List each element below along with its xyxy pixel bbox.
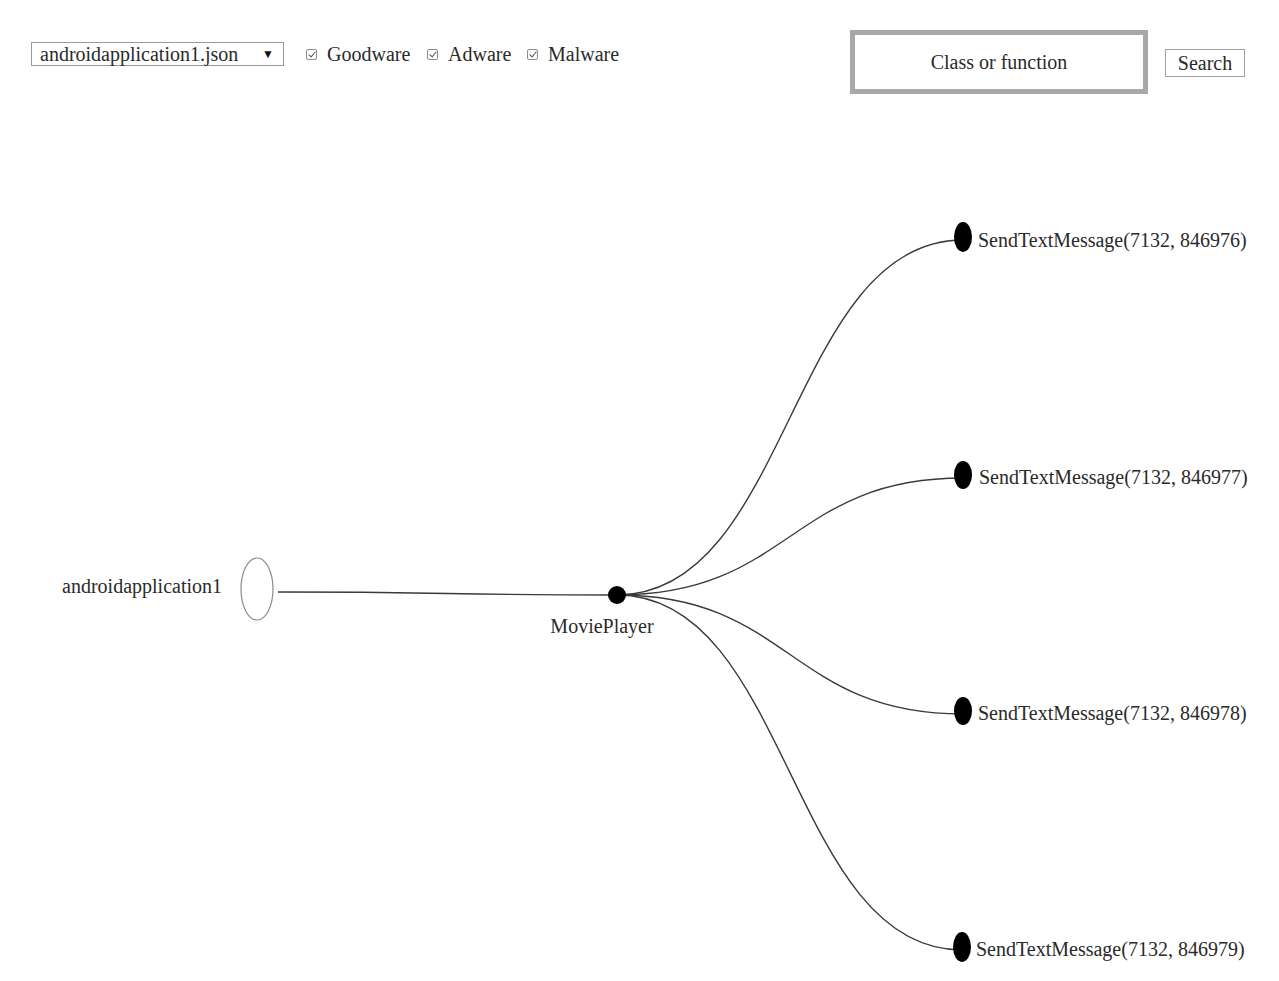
leaf-node-label: SendTextMessage(7132, 846979) <box>976 938 1245 961</box>
tree-node-leaf-2[interactable]: SendTextMessage(7132, 846977) <box>954 461 1248 489</box>
leaf-node-dot[interactable] <box>954 697 972 725</box>
root-node-label: androidapplication1 <box>62 575 222 598</box>
leaf-node-label: SendTextMessage(7132, 846976) <box>978 229 1247 252</box>
link-movieplayer-to-leaf-3 <box>617 595 963 714</box>
leaf-node-dot[interactable] <box>954 222 972 252</box>
leaf-node-label: SendTextMessage(7132, 846977) <box>979 466 1248 489</box>
root-node-ellipse[interactable] <box>241 558 273 620</box>
link-movieplayer-to-leaf-1 <box>617 240 963 595</box>
tree-node-leaf-1[interactable]: SendTextMessage(7132, 846976) <box>954 222 1247 252</box>
link-movieplayer-to-leaf-2 <box>617 478 963 595</box>
tree-node-root[interactable]: androidapplication1 <box>62 558 273 620</box>
movieplayer-node-dot[interactable] <box>608 586 626 604</box>
link-movieplayer-to-leaf-4 <box>617 595 962 950</box>
link-root-to-movieplayer <box>278 592 617 595</box>
tree-node-leaf-3[interactable]: SendTextMessage(7132, 846978) <box>954 697 1247 725</box>
leaf-node-label: SendTextMessage(7132, 846978) <box>978 702 1247 725</box>
tree-node-leaf-4[interactable]: SendTextMessage(7132, 846979) <box>953 932 1245 962</box>
leaf-node-dot[interactable] <box>954 461 972 489</box>
call-tree-diagram: androidapplication1 MoviePlayer SendText… <box>0 0 1279 981</box>
leaf-node-dot[interactable] <box>953 932 971 962</box>
movieplayer-node-label: MoviePlayer <box>550 615 654 638</box>
